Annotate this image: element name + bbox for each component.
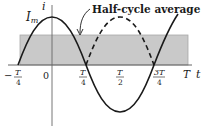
svg-text:2: 2 [118, 78, 123, 87]
tick-label-half: T 2 [116, 68, 124, 87]
svg-text:T: T [15, 68, 21, 77]
tick-label-minus-quarter: − T 4 [4, 68, 22, 87]
x-axis-label: t [196, 68, 201, 81]
svg-text:3T: 3T [154, 68, 165, 77]
svg-text:4: 4 [157, 78, 162, 87]
tick-label-zero: 0 [43, 70, 49, 81]
annotation-label: Half-cycle average [92, 3, 201, 15]
tick-label-period: T [183, 68, 191, 80]
svg-text:−: − [4, 70, 12, 81]
annotation-arrow [80, 9, 90, 33]
diagram-canvas: Half-cycle average Im i t − T 4 0 T 4 T … [0, 0, 206, 129]
tick-label-three-quarter: 3T 4 [153, 68, 165, 87]
svg-text:4: 4 [16, 78, 21, 87]
half-cycle-average-region [20, 35, 188, 65]
tick-label-quarter: T 4 [79, 68, 87, 87]
peak-label: Im [25, 10, 39, 25]
svg-text:T: T [117, 68, 123, 77]
svg-text:4: 4 [81, 78, 86, 87]
y-axis-label: i [42, 0, 46, 13]
svg-text:T: T [80, 68, 86, 77]
